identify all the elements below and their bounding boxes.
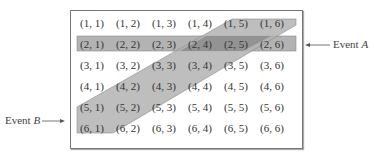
outcome-cell: (4, 6) [254,80,290,93]
event-b-label-prefix: Event [5,114,33,126]
outcome-cell: (4, 3) [146,80,182,93]
outcome-cell: (1, 6) [254,17,290,30]
event-b-label-var: B [33,114,40,126]
event-a-arrow [305,43,330,47]
outcome-cell: (3, 4) [182,59,218,72]
outcome-cell: (4, 5) [218,80,254,93]
outcome-cell: (5, 2) [110,101,146,114]
outcome-cell: (6, 2) [110,122,146,135]
outcome-cell: (2, 1) [74,38,110,51]
event-a-label-prefix: Event [333,38,361,50]
outcome-cell: (6, 3) [146,122,182,135]
outcome-cell: (1, 2) [110,17,146,30]
outcome-cell: (5, 6) [254,101,290,114]
outcome-cell: (4, 4) [182,80,218,93]
outcome-cell: (5, 5) [218,101,254,114]
event-b-arrow [42,119,65,123]
event-a-label: Event A [333,38,368,50]
outcome-cell: (2, 6) [254,38,290,51]
outcome-cell: (1, 1) [74,17,110,30]
outcome-cell: (5, 1) [74,101,110,114]
outcome-cell: (1, 3) [146,17,182,30]
outcome-cell: (1, 5) [218,17,254,30]
outcome-cell: (3, 2) [110,59,146,72]
event-b-label: Event B [5,114,40,126]
outcome-cell: (1, 4) [182,17,218,30]
sample-space-grid: (1, 1) (1, 2) (1, 3) (1, 4) (1, 5) (1, 6… [71,11,302,148]
outcome-cell: (3, 3) [146,59,182,72]
outcome-cell: (3, 6) [254,59,290,72]
outcome-cell: (5, 3) [146,101,182,114]
outcome-cell: (6, 5) [218,122,254,135]
outcome-cell: (5, 4) [182,101,218,114]
outcome-cell: (4, 2) [110,80,146,93]
outcome-cell: (2, 2) [110,38,146,51]
outcome-cell: (3, 5) [218,59,254,72]
outcome-cell: (6, 6) [254,122,290,135]
outcome-cell: (6, 4) [182,122,218,135]
event-a-label-var: A [361,38,368,50]
outcome-cell: (3, 1) [74,59,110,72]
outcome-cell: (4, 1) [74,80,110,93]
outcome-cell: (6, 1) [74,122,110,135]
outcome-cell: (2, 5) [218,38,254,51]
outcome-cell: (2, 4) [182,38,218,51]
outcome-cell: (2, 3) [146,38,182,51]
